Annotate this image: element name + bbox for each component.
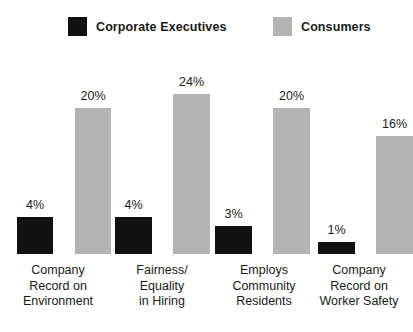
category-label-line: Equality	[112, 279, 212, 295]
legend-swatch-icon-consumers	[273, 17, 292, 36]
category-label-line: Record on	[309, 279, 409, 295]
legend-swatch-icon-executives	[68, 17, 87, 36]
bar-value-label: 24%	[179, 75, 204, 89]
bar-consumers: 24%	[173, 94, 210, 254]
bar-executives: 1%	[318, 242, 355, 254]
bar-value-label: 20%	[80, 89, 105, 103]
bar-group: 3% 20%	[215, 60, 310, 254]
bar-value-label: 4%	[124, 198, 142, 212]
bar-rect	[17, 217, 53, 254]
category-label-line: Residents	[209, 294, 319, 310]
bar-consumers: 20%	[75, 108, 111, 254]
bar-rect	[215, 226, 252, 254]
bar-value-label: 16%	[382, 117, 407, 131]
category-label-line: in Hiring	[112, 294, 212, 310]
bar-rect	[115, 217, 152, 254]
category-label: Fairness/ Equality in Hiring	[112, 263, 212, 310]
bar-group: 1% 16%	[318, 60, 413, 254]
bar-value-label: 4%	[26, 198, 44, 212]
category-label-line: Environment	[4, 294, 112, 310]
category-axis: Company Record on Environment Fairness/ …	[0, 263, 409, 329]
bar-value-label: 3%	[224, 207, 242, 221]
plot-area: 4% 20% 4% 24% 3% 20%	[0, 60, 409, 254]
legend-item-consumers: Consumers	[273, 17, 371, 36]
category-label-line: Fairness/	[112, 263, 212, 279]
category-label-line: Record on	[4, 279, 112, 295]
bar-group: 4% 20%	[17, 60, 111, 254]
bar-consumers: 16%	[376, 136, 413, 254]
category-label: Company Record on Worker Safety	[309, 263, 409, 310]
category-label-line: Employs	[209, 263, 319, 279]
bar-rect	[173, 94, 210, 254]
legend-label-executives: Corporate Executives	[96, 20, 227, 34]
category-label-line: Company	[4, 263, 112, 279]
bar-consumers: 20%	[273, 108, 310, 254]
bar-rect	[75, 108, 111, 254]
bar-executives: 4%	[17, 217, 53, 254]
category-label: Company Record on Environment	[4, 263, 112, 310]
bar-rect	[376, 136, 413, 254]
bar-executives: 3%	[215, 226, 252, 254]
legend-item-corporate-executives: Corporate Executives	[68, 17, 227, 36]
bar-executives: 4%	[115, 217, 152, 254]
bar-value-label: 20%	[279, 89, 304, 103]
category-label-line: Company	[309, 263, 409, 279]
bar-rect	[273, 108, 310, 254]
bar-rect	[318, 242, 355, 254]
bar-value-label: 1%	[327, 223, 345, 237]
category-label-line: Worker Safety	[309, 294, 409, 310]
category-label: Employs Community Residents	[209, 263, 319, 310]
category-label-line: Community	[209, 279, 319, 295]
bar-group: 4% 24%	[115, 60, 210, 254]
chart-legend: Corporate Executives Consumers	[0, 17, 409, 39]
legend-label-consumers: Consumers	[301, 20, 371, 34]
